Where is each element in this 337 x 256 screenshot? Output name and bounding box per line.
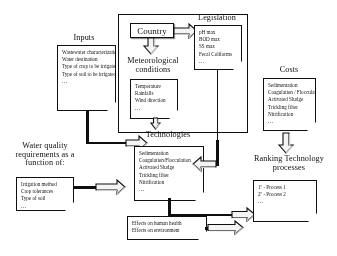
meteorological-box: Temperature Rainfalls Wind direction ... (130, 79, 178, 119)
meteorological-item-1: Rainfalls (135, 90, 174, 97)
arrow-meteorological-to-technologies (150, 118, 161, 130)
legislation-title: Legislation (189, 14, 245, 23)
technologies-item-3: Trickling filter (139, 172, 200, 179)
water-quality-item-1: Crop tolerances (21, 188, 70, 195)
water-quality-title: Water quality requirements as a function… (4, 142, 86, 168)
ranking-title: Ranking Technology processes (243, 155, 335, 172)
country-box: Country (130, 23, 174, 38)
effects-item-1: Effects on environment (132, 227, 203, 234)
legislation-item-0: pH max (199, 29, 238, 36)
line-legislation-down (217, 70, 218, 142)
inputs-title: Inputs (48, 34, 120, 43)
arrow-waterquality-to-technologies (96, 180, 126, 195)
water-quality-ellipsis: ... (21, 203, 70, 210)
diagram-canvas: Inputs Wastewater characterization Water… (0, 0, 337, 256)
arrow-legislation-to-technologies (192, 157, 216, 172)
inputs-item-0: Wastewater characterization (62, 49, 112, 56)
costs-item-3: Trickling filter (268, 104, 312, 111)
inputs-item-2: Type of crop to be irrigated (62, 63, 112, 70)
costs-item-2: Activated Sludge (268, 96, 312, 103)
ranking-item-1: 2º - Process 2 (258, 191, 313, 198)
ranking-item-0: 1º - Process 1 (258, 184, 313, 191)
technologies-item-0: Sedimentation (139, 150, 200, 157)
inputs-item-1: Water destination (62, 56, 112, 63)
meteorological-ellipsis: ... (135, 105, 174, 112)
arrow-costs-to-ranking (278, 133, 294, 154)
legislation-box: pH max BOD max SS max Fecal Coliforms ..… (194, 25, 242, 70)
costs-item-4: Nitrification (268, 111, 312, 118)
arrow-technologies-to-ranking (232, 208, 256, 222)
inputs-ellipsis: ... (62, 78, 112, 85)
legislation-item-2: SS max (199, 43, 238, 50)
arrow-effects-to-ranking (208, 221, 244, 235)
inputs-item-3: Type of soil to be irrigated (62, 71, 112, 78)
costs-item-1: Coagulation / Flocculation (268, 89, 312, 96)
ranking-ellipsis: ... (258, 198, 313, 205)
meteorological-item-2: Wind direction (135, 97, 174, 104)
water-quality-item-2: Type of soil (21, 195, 70, 202)
effects-item-0: Effects on human health (132, 220, 203, 227)
arrow-country-to-meteorological (143, 38, 159, 55)
technologies-item-4: Nitrification (139, 179, 200, 186)
meteorological-item-0: Temperature (135, 83, 174, 90)
effects-box: Effects on human health Effects on envir… (127, 216, 207, 240)
meteorological-title: Meteorological conditions (122, 57, 184, 74)
water-quality-box: Irrigation method Crop tolerances Type o… (16, 177, 74, 211)
costs-title: Costs (265, 66, 313, 75)
costs-item-0: Sedimentation (268, 82, 312, 89)
inputs-box: Wastewater characterization Water destin… (57, 45, 116, 111)
legislation-item-1: BOD max (199, 36, 238, 43)
water-quality-item-0: Irrigation method (21, 181, 70, 188)
costs-box: Sedimentation Coagulation / Flocculation… (263, 78, 316, 131)
ranking-box: 1º - Process 1 2º - Process 2 ... (253, 180, 317, 222)
technologies-ellipsis: ... (139, 186, 200, 193)
costs-ellipsis: ... (268, 118, 312, 125)
technologies-item-1: Coagulation/Flocculation (139, 157, 200, 164)
technologies-item-2: Activated Sludge (139, 164, 200, 171)
connector-inputs-down (86, 111, 89, 144)
legislation-ellipsis: ... (199, 58, 238, 65)
technologies-title: Technologies (133, 131, 203, 140)
country-label: Country (137, 26, 167, 36)
legislation-item-3: Fecal Coliforms (199, 51, 238, 58)
technologies-box: Sedimentation Coagulation/Flocculation A… (134, 146, 204, 201)
